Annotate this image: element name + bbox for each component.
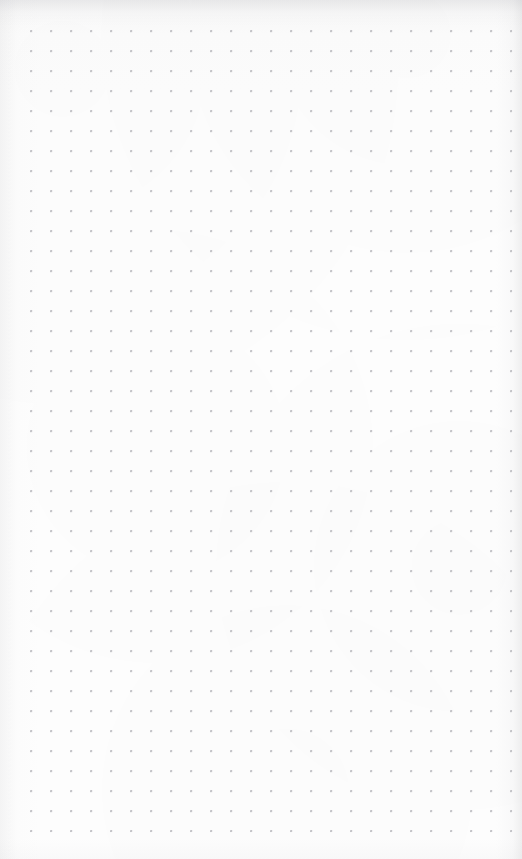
page-content-area[interactable]	[31, 31, 512, 832]
dot-grid-page: Blank dot grid page dot grid	[0, 0, 522, 859]
